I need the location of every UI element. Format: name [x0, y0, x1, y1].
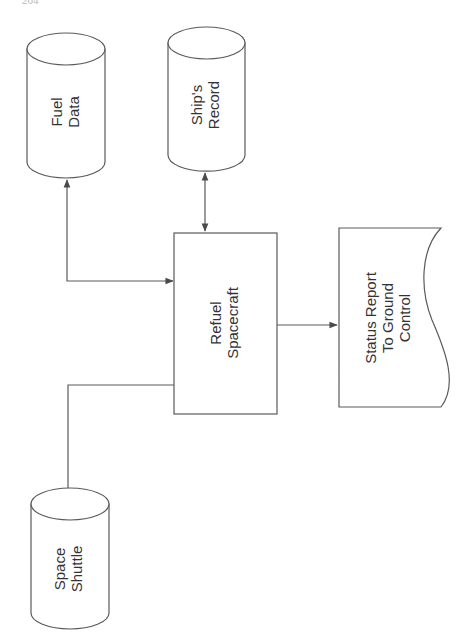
node-label-line: Control [396, 294, 413, 342]
node-refuel-spacecraft[interactable]: Refuel Spacecraft [174, 233, 277, 414]
node-label-line: Data [65, 96, 82, 128]
node-label-line: Status Report [362, 271, 379, 364]
node-status-report[interactable]: Status Report To Ground Control [339, 228, 449, 407]
cylinder-top [168, 27, 245, 59]
node-label-line: Record [205, 81, 222, 129]
edge-space-shuttle-refuel [68, 385, 174, 488]
node-label-line: Space [51, 548, 68, 591]
node-label-line: Shuttle [68, 546, 85, 593]
cylinder-top [31, 488, 109, 520]
edge-fuel-data-refuel [67, 180, 173, 281]
node-label-line: Ship's [188, 85, 205, 125]
node-fuel-data[interactable]: Fuel Data [27, 33, 105, 178]
flow-diagram: Fuel Data Ship's Record Refuel Spacecraf… [0, 0, 475, 635]
node-label-line: Spacecraft [224, 286, 241, 359]
node-ships-record[interactable]: Ship's Record [168, 27, 245, 171]
node-space-shuttle[interactable]: Space Shuttle [31, 488, 109, 629]
node-label-line: Fuel [48, 97, 65, 126]
node-label-line: To Ground [379, 283, 396, 353]
cylinder-top [27, 33, 105, 65]
node-label-line: Refuel [207, 301, 224, 344]
